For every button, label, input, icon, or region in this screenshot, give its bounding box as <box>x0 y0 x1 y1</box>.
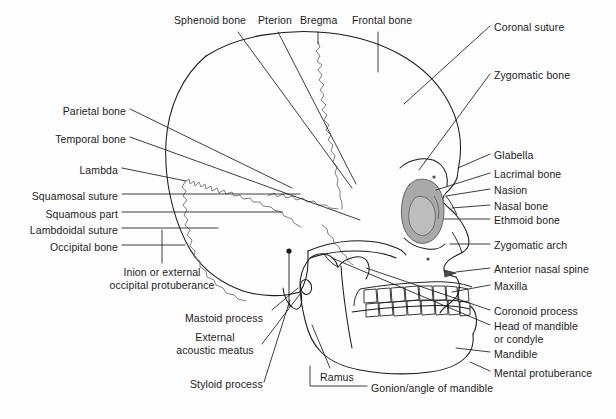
label-anterior-nasal-spine: Anterior nasal spine <box>494 263 589 276</box>
label-squamous-part: Squamous part <box>0 208 118 221</box>
label-head-of-mandible-line2: or condyle <box>494 333 578 346</box>
label-gonion-angle-of-mandible: Gonion/angle of mandible <box>371 382 493 395</box>
leader-pterion <box>278 32 356 184</box>
label-temporal-bone: Temporal bone <box>0 133 126 146</box>
label-inion-line1: Inion or external <box>62 266 262 279</box>
label-mastoid-process: Mastoid process <box>185 312 263 325</box>
label-ramus: Ramus <box>320 371 354 384</box>
leader-glabella <box>458 154 490 168</box>
nasal-bone-outline <box>446 196 457 215</box>
label-lambda: Lambda <box>0 164 118 177</box>
mental-protuberance-outline <box>470 306 476 334</box>
leader-parietal-bone <box>130 109 292 188</box>
orbit-inner-fill <box>409 196 436 235</box>
leader-lambda <box>122 168 186 181</box>
leader-nasion <box>446 189 490 196</box>
leader-zygomatic-bone <box>419 74 490 170</box>
label-inion-line2: occipital protuberance <box>62 279 262 292</box>
leader-nasal-bone <box>452 205 490 208</box>
label-pterion: Pterion <box>258 14 292 27</box>
occiput-outline <box>166 56 300 296</box>
label-head-of-mandible-line1: Head of mandible <box>494 320 578 333</box>
sutures-group <box>182 42 353 301</box>
mandible-outline <box>300 262 473 374</box>
leader-ramus <box>312 325 330 368</box>
leader-temporal-bone <box>130 137 360 220</box>
cranial-vault-outline <box>206 32 460 178</box>
label-zygomatic-bone: Zygomatic bone <box>494 69 570 82</box>
label-lambdoidal-suture: Lambdoidal suture <box>0 224 118 237</box>
anterior-nasal-spine-mark <box>444 270 456 277</box>
label-nasion: Nasion <box>494 184 527 197</box>
label-nasal-bone: Nasal bone <box>494 200 548 213</box>
label-zygomatic-arch: Zygomatic arch <box>494 239 567 252</box>
label-coronal-suture: Coronal suture <box>494 21 564 34</box>
label-mandible: Mandible <box>494 348 537 361</box>
leader-mental-protuberance <box>470 362 490 371</box>
orbit-group <box>401 175 444 243</box>
coronal-suture-line <box>316 42 342 209</box>
leader-styloid-process <box>264 300 290 382</box>
temporal-fossa-border <box>300 251 308 292</box>
skull-diagram: Sphenoid bone Pterion Bregma Frontal bon… <box>0 0 616 419</box>
label-sphenoid-bone: Sphenoid bone <box>174 14 246 27</box>
label-eam-line2: acoustic meatus <box>170 344 260 357</box>
ramus-anterior-border <box>341 266 352 348</box>
label-lacrimal-bone: Lacrimal bone <box>494 168 561 181</box>
leader-external-acoustic-meatus <box>262 294 300 344</box>
zygomatic-arch-outline <box>308 241 406 255</box>
label-parietal-bone: Parietal bone <box>0 105 126 118</box>
label-inion: Inion or external occipital protuberance <box>62 266 262 291</box>
label-frontal-bone: Frontal bone <box>352 14 412 27</box>
leader-mastoid-process <box>272 288 298 310</box>
condyle-head-outline <box>307 254 338 267</box>
maxillary-tuberosity <box>354 289 360 306</box>
teeth-group <box>364 286 470 317</box>
temporal-line <box>268 193 338 209</box>
leader-coronoid-process <box>366 268 490 310</box>
label-ethmoid-bone: Ethmoid bone <box>494 214 560 227</box>
label-occipital-bone: Occipital bone <box>0 241 118 254</box>
coronoid-process-outline <box>338 257 369 279</box>
label-maxilla: Maxilla <box>494 280 527 293</box>
leader-anterior-nasal-spine <box>456 268 490 272</box>
label-bregma: Bregma <box>300 14 337 27</box>
nasal-aperture-outline <box>452 232 462 253</box>
squamosal-suture-line <box>185 179 301 227</box>
label-eam-line1: External <box>170 331 260 344</box>
label-mental-protuberance: Mental protuberance <box>494 367 592 380</box>
leader-mandible <box>456 348 490 352</box>
label-external-acoustic-meatus: External acoustic meatus <box>170 331 260 356</box>
leader-lacrimal-bone <box>436 173 490 190</box>
leader-sphenoid-bone <box>238 32 352 188</box>
label-head-of-mandible: Head of mandible or condyle <box>494 320 578 345</box>
supraorbital-foramen <box>432 175 435 178</box>
styloid-process-tip <box>286 248 291 253</box>
label-glabella: Glabella <box>494 149 533 162</box>
label-squamosal-suture: Squamosal suture <box>0 190 118 203</box>
label-coronoid-process: Coronoid process <box>494 305 578 318</box>
label-styloid-process: Styloid process <box>190 378 263 391</box>
infraorbital-foramen <box>426 257 429 260</box>
